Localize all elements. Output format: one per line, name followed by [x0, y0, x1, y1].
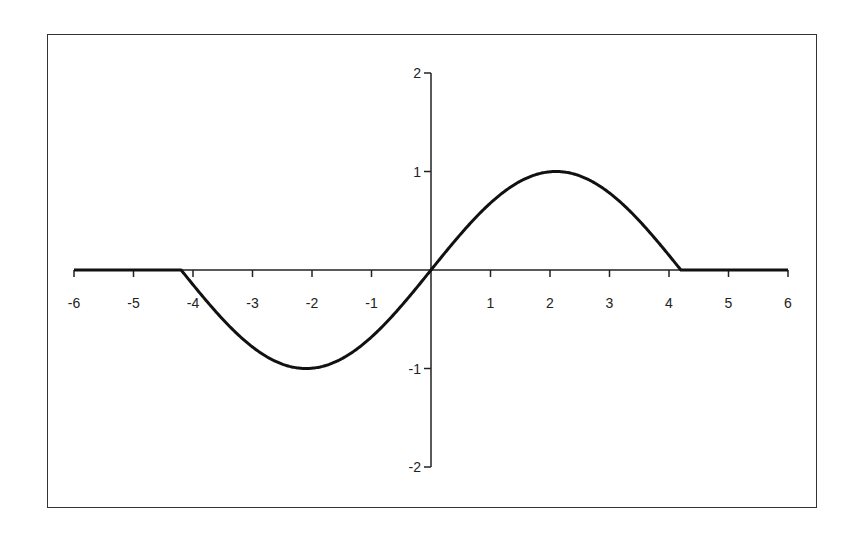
x-tick-label: -2 [306, 295, 319, 311]
x-tick-label: -5 [127, 295, 140, 311]
y-tick-label: -1 [409, 361, 422, 377]
x-tick-label: -3 [246, 295, 259, 311]
y-tick-label: 2 [413, 65, 421, 81]
y-tick-label: 1 [413, 164, 421, 180]
x-tick-label: 3 [606, 295, 614, 311]
chart-plot: -6-5-4-3-2-112345621-1-2 [0, 0, 861, 540]
x-tick-label: 1 [487, 295, 495, 311]
x-tick-label: 5 [725, 295, 733, 311]
x-tick-label: 6 [784, 295, 792, 311]
x-tick-label: 2 [546, 295, 554, 311]
y-tick-label: -2 [409, 459, 422, 475]
x-tick-label: -4 [187, 295, 200, 311]
x-tick-label: 4 [665, 295, 673, 311]
x-tick-label: -1 [365, 295, 378, 311]
x-tick-label: -6 [68, 295, 81, 311]
